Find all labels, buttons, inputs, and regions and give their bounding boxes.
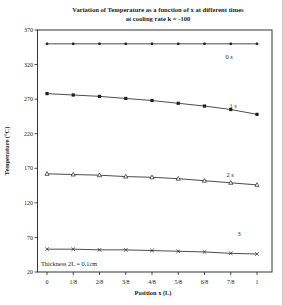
series-label-0: 0 s [225,53,233,60]
marker-filled-square [150,99,153,102]
marker-filled-square [72,93,75,96]
y-tick-label: 370 [24,27,33,33]
chart-title-line1: Variation of Temperature as a function o… [72,6,244,13]
x-axis-label: Position x (L) [135,289,172,297]
marker-filled-circle [151,42,154,45]
chart-title-line2: at cooling rate k = -100 [126,15,191,22]
y-tick-label: 20 [27,269,33,275]
series-line-3 [47,249,257,254]
marker-filled-circle [177,42,180,45]
x-tick-label: 3/8 [122,279,130,285]
marker-filled-circle [98,42,101,45]
marker-filled-circle [72,42,75,45]
x-tick-label: 1/8 [69,279,77,285]
plot-area: Variation of Temperature as a function o… [0,0,283,306]
x-tick-label: 5/8 [174,279,182,285]
x-tick-label: 7/8 [227,279,235,285]
x-tick-label: 6/8 [201,279,209,285]
marker-filled-square [124,97,127,100]
y-tick-label: 220 [24,131,33,137]
y-axis-label: Temperature (°C) [3,127,11,176]
marker-filled-circle [256,42,259,45]
y-tick-label: 270 [24,96,33,102]
series-line-1 [47,94,257,115]
x-tick-label: 1 [256,279,259,285]
y-tick-label: 70 [27,235,33,241]
y-tick-label: 120 [24,200,33,206]
x-tick-label: 2/8 [96,279,104,285]
marker-filled-square [177,102,180,105]
marker-filled-square [45,92,48,95]
marker-filled-square [203,104,206,107]
series-label-3: 3 [237,230,240,237]
temperature-chart-figure: Variation of Temperature as a function o… [0,0,283,306]
marker-filled-circle [46,42,49,45]
marker-filled-circle [124,42,127,45]
annotation-thickness: Thickness 2L = 0.1cm [41,260,97,267]
x-tick-label: 4/8 [148,279,156,285]
y-tick-label: 170 [24,165,33,171]
marker-filled-circle [229,42,232,45]
marker-filled-circle [203,42,206,45]
marker-filled-square [98,95,101,98]
x-tick-label: 0 [46,279,49,285]
series-label-1: 1 s [229,102,237,109]
y-tick-label: 320 [24,62,33,68]
series-label-2: 2 s [226,171,234,178]
marker-filled-square [255,113,258,116]
